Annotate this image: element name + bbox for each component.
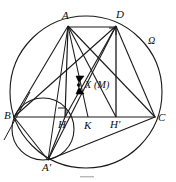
label-X-M: X (M) — [85, 80, 110, 90]
diagram-canvas — [0, 0, 176, 182]
label-H-prime: H' — [110, 119, 120, 130]
label-D: D — [116, 9, 124, 20]
scan-artifact — [80, 176, 94, 177]
segment-BAprime — [14, 117, 48, 160]
label-K: K — [84, 120, 91, 131]
segment-AC — [68, 26, 155, 117]
label-omega: Ω — [148, 36, 155, 46]
label-B: B — [4, 110, 11, 121]
label-C: C — [158, 112, 165, 123]
label-A-prime: A' — [42, 162, 51, 173]
geometry-figure: A D Ω X (M) B H K H' C A' — [0, 0, 176, 182]
segment-AK — [68, 26, 88, 117]
label-A: A — [62, 10, 69, 21]
label-H: H — [58, 119, 66, 130]
